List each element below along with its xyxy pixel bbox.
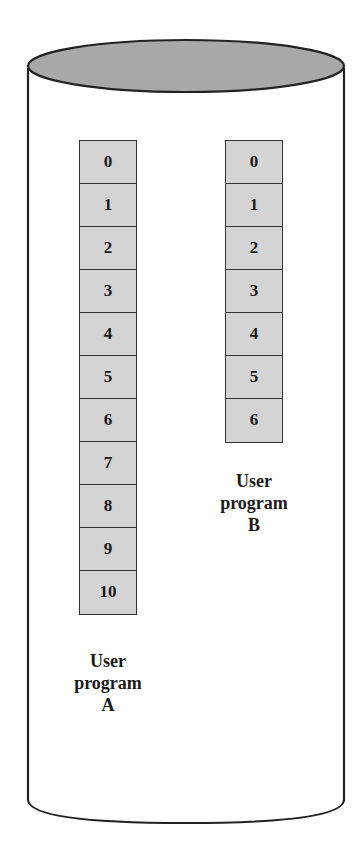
page-cell: 8 bbox=[79, 484, 137, 529]
page-cell: 2 bbox=[79, 226, 137, 271]
page-cell: 9 bbox=[79, 527, 137, 572]
page-cell: 6 bbox=[79, 398, 137, 443]
label-line: program bbox=[48, 672, 168, 694]
disk-top bbox=[28, 40, 344, 92]
program-a-label: User program A bbox=[48, 650, 168, 716]
page-cell: 0 bbox=[79, 140, 137, 185]
page-cell: 6 bbox=[225, 398, 283, 443]
page-cell: 1 bbox=[79, 183, 137, 228]
page-cell: 1 bbox=[225, 183, 283, 228]
label-line: User bbox=[48, 650, 168, 672]
page-cell: 3 bbox=[79, 269, 137, 314]
page-cell: 2 bbox=[225, 226, 283, 271]
disk-cylinder bbox=[0, 0, 363, 844]
label-line: User bbox=[194, 470, 314, 492]
page-cell: 5 bbox=[225, 355, 283, 400]
page-cell: 3 bbox=[225, 269, 283, 314]
page-cell: 10 bbox=[79, 570, 137, 615]
label-line: A bbox=[48, 694, 168, 716]
label-line: program bbox=[194, 492, 314, 514]
page-cell: 5 bbox=[79, 355, 137, 400]
program-b-pages: 0123456 bbox=[225, 140, 283, 443]
program-b-label: User program B bbox=[194, 470, 314, 536]
label-line: B bbox=[194, 514, 314, 536]
page-cell: 4 bbox=[225, 312, 283, 357]
page-cell: 7 bbox=[79, 441, 137, 486]
page-cell: 4 bbox=[79, 312, 137, 357]
program-a-pages: 012345678910 bbox=[79, 140, 137, 615]
page-cell: 0 bbox=[225, 140, 283, 185]
